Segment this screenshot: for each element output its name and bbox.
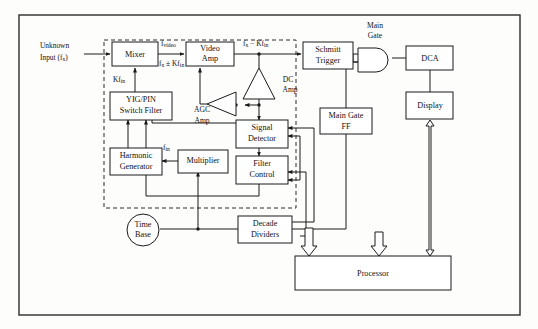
block-filter-control-label-1: Filter [253, 159, 271, 168]
block-processor[interactable]: Processor [295, 256, 451, 290]
block-video-amp[interactable]: Video Amp [186, 42, 234, 66]
dc-amp-triangle-icon [243, 68, 275, 99]
block-schmitt-trigger[interactable]: Schmitt Trigger [303, 42, 353, 69]
hollow-arrow-to-processor-right [371, 232, 387, 256]
block-time-base-label-1: Time [135, 220, 152, 229]
block-display[interactable]: Display [406, 92, 453, 119]
block-schmitt-label-2: Trigger [316, 56, 341, 65]
block-dc-amp-label-1: DC [283, 75, 294, 84]
block-schmitt-label-1: Schmitt [315, 45, 341, 54]
block-diagram: Mixer Video Amp YIG/PIN Switch Filter Ha… [0, 0, 538, 329]
block-yig-pin-switch-filter[interactable]: YIG/PIN Switch Filter [110, 92, 172, 120]
label-unknown-input: Unknown Input (fx) [40, 41, 69, 63]
block-display-label: Display [417, 101, 443, 110]
block-main-gate-ff-label-2: FF [341, 122, 351, 131]
main-gate-label-2: Gate [368, 31, 383, 40]
block-main-gate-ff[interactable]: Main Gate FF [320, 108, 372, 134]
block-agc-amp-label-2: Amp [194, 116, 209, 125]
block-agc-amp-label-1: AGC [194, 105, 210, 114]
block-time-base-label-2: Base [135, 230, 151, 239]
block-video-amp-label-1: Video [200, 44, 220, 53]
block-multiplier-label: Multiplier [186, 156, 219, 165]
hollow-arrow-processor-display [426, 120, 434, 256]
block-mixer-label: Mixer [125, 50, 145, 59]
block-filter-control-label-2: Control [249, 170, 275, 179]
block-signal-detector-label-2: Detector [248, 134, 276, 143]
block-main-gate-ff-label-1: Main Gate [329, 111, 364, 120]
block-harmonic-label-2: Generator [120, 162, 153, 171]
unknown-input-line2: Input (fx) [40, 53, 68, 63]
block-signal-detector-label-1: Signal [252, 123, 274, 132]
and-gate-icon [358, 48, 388, 72]
label-fx-plusminus-kfin: fx ± Kfin [159, 59, 184, 69]
label-kfin: Kfin [113, 75, 125, 85]
block-decade-dividers[interactable]: Decade Dividers [238, 216, 292, 243]
block-dc-amp-label-2: Amp [282, 85, 297, 94]
unknown-input-line1: Unknown [40, 41, 69, 50]
block-yig-label-2: Switch Filter [120, 106, 163, 115]
block-multiplier[interactable]: Multiplier [178, 150, 228, 173]
wire-control-riser [296, 136, 300, 180]
block-harmonic-label-1: Harmonic [120, 151, 153, 160]
agc-amp-triangle-icon [207, 92, 236, 116]
block-main-gate[interactable]: Main Gate [358, 21, 388, 72]
main-gate-label-1: Main [367, 21, 383, 30]
block-filter-control[interactable]: Filter Control [236, 156, 288, 184]
block-yig-label-1: YIG/PIN [126, 95, 156, 104]
block-dca-label: DCA [421, 54, 438, 63]
block-decade-label-1: Decade [253, 219, 278, 228]
block-signal-detector[interactable]: Signal Detector [236, 120, 288, 148]
hollow-arrow-group [301, 120, 434, 256]
wire-agcamp-to-videoamp [200, 68, 207, 104]
block-mixer[interactable]: Mixer [112, 42, 158, 66]
block-video-amp-label-2: Amp [202, 54, 218, 63]
figure-canvas: Mixer Video Amp YIG/PIN Switch Filter Ha… [0, 0, 538, 329]
block-dc-amp[interactable]: DC Amp [243, 68, 298, 99]
block-processor-label: Processor [357, 269, 389, 278]
hollow-arrow-to-processor-left [301, 228, 317, 256]
junction-dot-videoamp-out [257, 52, 260, 55]
label-fin: fin [163, 143, 170, 153]
block-dca[interactable]: DCA [406, 46, 453, 70]
block-harmonic-generator[interactable]: Harmonic Generator [110, 148, 162, 175]
block-decade-label-2: Dividers [251, 230, 279, 239]
block-time-base[interactable]: Time Base [127, 214, 159, 246]
